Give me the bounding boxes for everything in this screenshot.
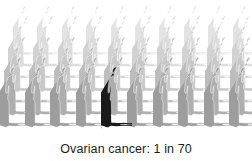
ovarian-cancer-pictogram: Ovarian cancer: 1 in 70 [0, 0, 252, 161]
crowd-figure-grid [0, 0, 252, 145]
caption-label: Ovarian cancer: 1 in 70 [0, 141, 252, 157]
crowd-figure [229, 66, 252, 141]
highlighted-figure [101, 66, 132, 141]
